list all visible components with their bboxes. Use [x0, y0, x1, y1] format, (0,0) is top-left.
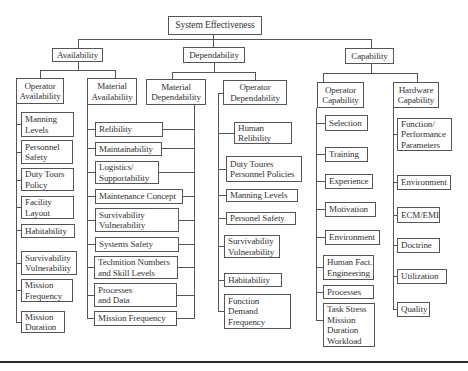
item-personel-safety: Personel Safety	[226, 212, 296, 225]
node-capability: Capability	[345, 48, 394, 64]
item-maintainability: Maintainability	[95, 142, 162, 156]
item-label: Environment	[401, 177, 447, 188]
node-label: Dependability	[189, 50, 239, 61]
node-operator-capability: Operator Capability	[317, 82, 364, 108]
item-label: Duty Tours Policy	[25, 169, 64, 190]
item-utilization: Utilization	[397, 269, 447, 284]
item-label: Manning Levels	[25, 114, 57, 135]
item-label: Relibility	[99, 124, 132, 135]
node-system-effectiveness: System Effectiveness	[168, 16, 262, 35]
item-environment: Environment	[397, 175, 451, 190]
node-label: Capability	[351, 51, 388, 62]
item-label: Maintainability	[99, 144, 153, 155]
item-label: Selection	[329, 118, 362, 129]
item-training: Training	[325, 147, 368, 162]
item-systems-safety: Systems Safety	[95, 237, 179, 252]
node-label: Material Availability	[91, 81, 132, 102]
item-selection: Selection	[325, 115, 368, 131]
bottom-divider	[0, 361, 468, 363]
item-mission-duration: Mission Duration	[21, 311, 65, 333]
node-material-dependability: Material Dependability	[146, 79, 206, 105]
item-label: Training	[329, 149, 359, 160]
item-survivability-vulnerability: Survivability Vulnerability	[21, 251, 77, 275]
item-label: Experience	[329, 176, 368, 187]
item-label: Personel Safety	[230, 213, 285, 224]
item-function-demand-frequency: Function Demand Frequency	[224, 294, 291, 329]
item-label: Logistics/ Supportability	[99, 162, 149, 183]
node-operator-availability: Operator Availability	[16, 78, 64, 104]
item-maintenance-concept: Maintenance Concept	[95, 189, 183, 204]
item-label: Mission Frequency	[25, 280, 62, 301]
node-dependability: Dependability	[183, 47, 245, 63]
item-label: Systems Safety	[99, 239, 153, 250]
item-label: Maintenance Concept	[99, 191, 176, 202]
item-label: Motivation	[329, 204, 368, 215]
item-label: Processes and Data	[98, 285, 132, 306]
node-hardware-capability: Hardware Capability	[393, 82, 439, 108]
item-experience: Experience	[325, 174, 373, 189]
node-material-availability: Material Availability	[87, 78, 137, 105]
item-technition-numbers: Technition Numbers and Skill Levels	[94, 256, 178, 279]
item-label: Utilization	[401, 271, 438, 282]
item-motivation: Motivation	[325, 202, 376, 217]
item-label: Environment	[329, 232, 375, 243]
item-label: Manning Levels	[230, 190, 287, 201]
item-label: Mission Duration	[25, 312, 56, 333]
item-habitability: Habitability	[21, 224, 75, 238]
item-manning-levels: Manning Levels	[226, 189, 298, 202]
item-label: Technition Numbers and Skill Levels	[98, 257, 170, 278]
item-label: Function Demand Frequency	[228, 296, 265, 328]
item-survivability-vulnerability: Survivability Vulnerability	[95, 208, 179, 232]
node-label: Operator Capability	[322, 85, 359, 106]
item-quality: Quality	[397, 302, 430, 317]
item-label: Function/ Performance Parameters	[401, 119, 446, 151]
node-availability: Availability	[52, 48, 103, 62]
item-ecm-emi: ECM/EMI	[397, 207, 440, 223]
item-processes-and-data: Processes and Data	[94, 283, 177, 307]
item-label: ECM/EMI	[401, 210, 439, 221]
item-label: Survivability Vulnerability	[99, 210, 145, 231]
item-task-stress-workload: Task Stress Mission Duration Workload	[323, 303, 375, 347]
item-habitability: Habitability	[224, 273, 282, 287]
item-label: Facility Layout	[25, 197, 52, 218]
item-relibility: Relibility	[95, 122, 163, 137]
item-label: Human Fact. Engineering	[327, 257, 372, 278]
item-facility-layout: Facility Layout	[21, 196, 74, 219]
item-duty-tours-policy: Duty Tours Policy	[21, 168, 74, 191]
item-human-relibility: Human Relibility	[234, 122, 292, 144]
item-processes: Processes	[323, 285, 374, 299]
node-operator-dependability: Operator Dependability	[223, 80, 287, 105]
item-manning-levels: Manning Levels	[21, 112, 74, 137]
item-label: Habitability	[25, 226, 67, 237]
item-function-performance-parameters: Function/ Performance Parameters	[397, 118, 452, 151]
item-doctrine: Doctrine	[397, 238, 440, 253]
node-label: Operator Dependability	[230, 82, 280, 103]
item-environment: Environment	[325, 230, 380, 245]
system-effectiveness-diagram: System Effectiveness Availability Depend…	[0, 0, 468, 371]
node-label: Material Dependability	[151, 82, 201, 103]
item-label: Doctrine	[401, 240, 432, 251]
item-personnel-safety: Personnel Safety	[21, 140, 73, 164]
item-mission-frequency: Mission Frequency	[21, 279, 73, 302]
item-label: Survivability Vulnerability	[228, 236, 274, 257]
node-label: Operator Availability	[19, 81, 60, 102]
item-human-factors-engineering: Human Fact. Engineering	[323, 255, 374, 280]
item-label: Task Stress Mission Duration Workload	[327, 304, 367, 346]
item-label: Mission Frequency	[98, 313, 166, 324]
item-logistics-supportability: Logistics/ Supportability	[95, 161, 159, 184]
item-label: Duty Toures Personnel Policies	[230, 159, 294, 180]
item-label: Survivability Vulnerability	[25, 253, 71, 274]
item-duty-toures-personnel-policies: Duty Toures Personnel Policies	[226, 156, 302, 182]
node-label: System Effectiveness	[175, 20, 254, 31]
item-label: Processes	[327, 287, 361, 298]
item-survivability-vulnerability: Survivability Vulnerability	[224, 235, 280, 258]
item-mission-frequency: Mission Frequency	[94, 311, 177, 326]
item-label: Quality	[401, 304, 427, 315]
item-label: Personnel Safety	[25, 142, 60, 163]
item-label: Human Relibility	[238, 123, 271, 144]
item-label: Habitability	[228, 275, 270, 286]
node-label: Hardware Capability	[398, 85, 435, 106]
node-label: Availability	[57, 50, 98, 61]
